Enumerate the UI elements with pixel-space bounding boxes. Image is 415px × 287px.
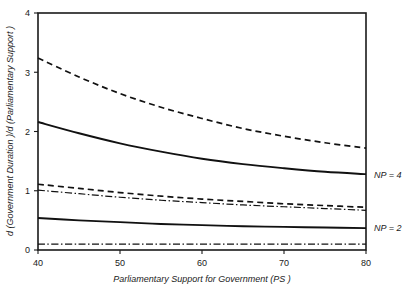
x-tick-label: 60 <box>197 258 207 268</box>
y-tick-label: 3 <box>25 68 30 78</box>
y-tick-label: 4 <box>25 8 30 18</box>
chart-figure: 01234 4050607080 NP = 4NP = 2 Parliament… <box>0 0 415 287</box>
series-annotation: NP = 4 <box>374 170 401 180</box>
x-axis-title: Parliamentary Support for Government (PS… <box>113 274 291 284</box>
x-tick-label: 40 <box>33 258 43 268</box>
series-annotation: NP = 2 <box>374 223 401 233</box>
x-tick-label: 70 <box>279 258 289 268</box>
x-tick-label: 80 <box>361 258 371 268</box>
y-tick-label: 2 <box>25 127 30 137</box>
y-tick-label: 1 <box>25 186 30 196</box>
y-axis-title: d (Government Duration )/d (Parliamentar… <box>5 26 15 236</box>
y-tick-label: 0 <box>25 245 30 255</box>
x-tick-label: 50 <box>115 258 125 268</box>
